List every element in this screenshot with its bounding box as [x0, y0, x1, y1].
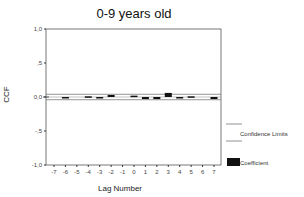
- x-tick-label: 0: [132, 169, 136, 175]
- coefficient-bar: [165, 93, 172, 97]
- y-tick-label: -,5: [35, 128, 43, 134]
- coefficient-bar: [62, 97, 69, 99]
- y-tick-label: 1,0: [34, 26, 43, 32]
- y-tick-label: -1,0: [32, 162, 43, 168]
- coefficient-bar: [96, 97, 103, 99]
- x-tick-label: -3: [97, 169, 103, 175]
- coefficient-bar: [85, 96, 92, 98]
- y-tick-label: 0,0: [34, 94, 43, 100]
- x-tick-label: -6: [63, 169, 69, 175]
- ccf-chart: 1,0,50,0-,5-1,0-7-6-5-4-3-2-101234567Con…: [0, 0, 304, 197]
- x-tick-label: -5: [74, 169, 80, 175]
- x-tick-label: -1: [120, 169, 126, 175]
- x-tick-label: 5: [189, 169, 193, 175]
- coefficient-bar: [131, 96, 138, 98]
- x-tick-label: 6: [201, 169, 205, 175]
- legend-confidence-label: Confidence Limits: [240, 131, 288, 137]
- x-tick-label: -2: [108, 169, 114, 175]
- coefficient-bar: [188, 96, 195, 98]
- coefficient-bar: [211, 97, 218, 99]
- coefficient-bar: [176, 97, 183, 99]
- coefficient-bar: [142, 97, 149, 99]
- x-tick-label: 2: [155, 169, 159, 175]
- coefficient-bar: [153, 97, 160, 99]
- x-tick-label: -4: [86, 169, 92, 175]
- x-tick-label: -7: [51, 169, 57, 175]
- x-tick-label: 7: [212, 169, 216, 175]
- y-tick-label: ,5: [37, 60, 43, 66]
- x-tick-label: 3: [167, 169, 171, 175]
- x-tick-label: 1: [144, 169, 148, 175]
- coefficient-bar: [108, 95, 115, 97]
- x-tick-label: 4: [178, 169, 182, 175]
- legend-coefficient-swatch: [227, 158, 240, 166]
- legend-coefficient-label: Coefficient: [240, 160, 269, 166]
